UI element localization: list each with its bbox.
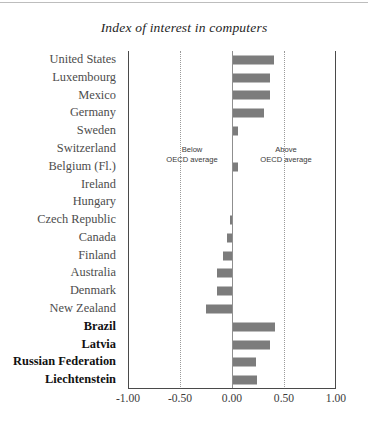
category-label: Czech Republic: [37, 211, 116, 229]
axis-line-min: [128, 51, 129, 389]
bar: [217, 287, 232, 296]
category-label: Mexico: [78, 87, 116, 105]
category-label: Denmark: [70, 282, 116, 300]
category-label: Hungary: [73, 193, 116, 211]
chart-title: Index of interest in computers: [0, 20, 368, 36]
bar: [232, 73, 270, 82]
category-label: New Zealand: [50, 300, 116, 318]
bar: [223, 251, 232, 260]
bar: [232, 91, 270, 100]
category-label: Finland: [78, 247, 116, 265]
bar: [232, 376, 257, 385]
category-label: United States: [50, 51, 116, 69]
bar: [232, 340, 270, 349]
annotation-above-line1: Above: [275, 145, 297, 154]
annotation-below-oecd: Below OECD average: [147, 145, 237, 164]
bar: [232, 322, 275, 331]
annotation-below-line1: Below: [182, 145, 203, 154]
category-label: Australia: [71, 264, 116, 282]
category-label: Latvia: [82, 336, 116, 354]
bar: [232, 358, 256, 367]
category-label: Switzerland: [57, 140, 116, 158]
value-axis-ticks: -1.00-0.500.000.501.00: [128, 392, 336, 408]
category-label: Germany: [70, 104, 116, 122]
bar: [206, 304, 232, 313]
category-label: Liechtenstein: [45, 371, 116, 389]
annotation-above-line2: OECD average: [241, 155, 331, 165]
category-label: Ireland: [81, 176, 116, 194]
axis-tick-label: 0.00: [222, 392, 242, 405]
axis-tick-label: -1.00: [116, 392, 140, 405]
category-label: Belgium (Fl.): [49, 158, 116, 176]
category-axis-labels: United StatesLuxembourgMexicoGermanySwed…: [0, 51, 122, 389]
category-label: Brazil: [84, 318, 116, 336]
gridline-neg-half: [180, 51, 181, 389]
gridline-pos-half: [284, 51, 285, 389]
plot-area: [128, 51, 336, 389]
category-label: Sweden: [77, 122, 116, 140]
scan-artifact-line: [0, 2, 368, 3]
category-label: Canada: [79, 229, 116, 247]
axis-line-max: [335, 51, 336, 389]
axis-tick-label: -0.50: [168, 392, 192, 405]
chart-root: Index of interest in computers United St…: [0, 0, 368, 425]
zero-reference-line: [232, 51, 233, 389]
bar: [232, 109, 264, 118]
axis-tick-label: 1.00: [326, 392, 346, 405]
category-label: Russian Federation: [13, 353, 116, 371]
bar: [232, 55, 274, 64]
annotation-below-line2: OECD average: [147, 155, 237, 165]
axis-tick-label: 0.50: [274, 392, 294, 405]
axis-line-bottom: [128, 388, 336, 389]
annotation-above-oecd: Above OECD average: [241, 145, 331, 164]
bar: [217, 269, 232, 278]
category-label: Luxembourg: [52, 69, 116, 87]
